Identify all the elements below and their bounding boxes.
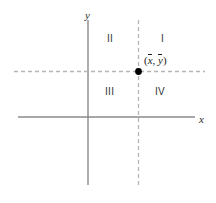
mean-point-label: (x, y)	[144, 55, 167, 66]
x-bar-variable: x	[148, 55, 153, 66]
quadrant-label-iii: III	[105, 87, 114, 97]
quadrant-label-i: I	[161, 34, 164, 44]
y-bar-variable: y	[158, 55, 163, 66]
y-axis-label: y	[85, 10, 90, 21]
y-overbar-icon	[158, 54, 162, 55]
figure-canvas	[0, 0, 216, 203]
quadrant-scatter-figure: y x I II III IV (x, y)	[0, 0, 216, 203]
mean-point-marker	[135, 68, 142, 75]
mean-label-close-paren: )	[163, 54, 167, 66]
x-overbar-icon	[148, 54, 152, 55]
x-bar-letter: x	[148, 54, 153, 66]
x-axis-label: x	[199, 114, 204, 125]
quadrant-label-ii: II	[107, 34, 113, 44]
quadrant-label-iv: IV	[155, 87, 165, 97]
y-bar-letter: y	[158, 54, 163, 66]
